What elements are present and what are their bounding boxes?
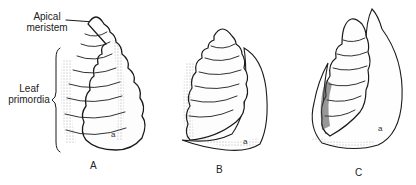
panel-b-drawing <box>182 29 267 150</box>
panel-c-drawing <box>312 9 402 149</box>
leaf-primordia-label: Leaf primordia <box>6 83 52 105</box>
apical-meristem-line1: Apical <box>24 11 70 22</box>
leaf-primordia-brace <box>52 48 60 152</box>
panel-b-label: B <box>216 164 223 175</box>
panel-a-drawing <box>52 17 145 152</box>
panel-b-leaf-marker: a <box>243 137 247 146</box>
leaf-primordia-line1: Leaf <box>6 83 52 94</box>
panel-a-leaf-marker: a <box>111 130 115 139</box>
panel-a-label: A <box>90 160 97 171</box>
panel-c-label: C <box>355 167 362 178</box>
apical-meristem-line2: meristem <box>24 22 70 33</box>
panel-c-leaf-marker: a <box>378 124 382 133</box>
leaf-primordia-line2: primordia <box>6 94 52 105</box>
shoot-apex-diagram: Apical meristem Leaf primordia a a a A B… <box>0 0 416 185</box>
apical-meristem-label: Apical meristem <box>24 11 70 33</box>
